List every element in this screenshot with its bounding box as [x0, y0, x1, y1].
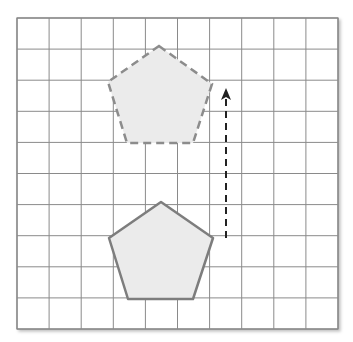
translation-diagram — [0, 0, 353, 342]
